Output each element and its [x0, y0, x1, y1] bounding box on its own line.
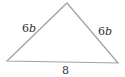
side-label-left: 6b — [22, 23, 36, 34]
side-label-base-value: 8 — [62, 64, 69, 77]
side-label-right-coefficient: 6 — [98, 25, 105, 38]
side-label-base: 8 — [62, 65, 69, 76]
side-label-left-variable: b — [29, 22, 36, 35]
side-label-right: 6b — [98, 26, 112, 37]
triangle-diagram: 6b 6b 8 — [0, 0, 125, 77]
side-label-left-coefficient: 6 — [22, 22, 29, 35]
side-label-right-variable: b — [105, 25, 112, 38]
